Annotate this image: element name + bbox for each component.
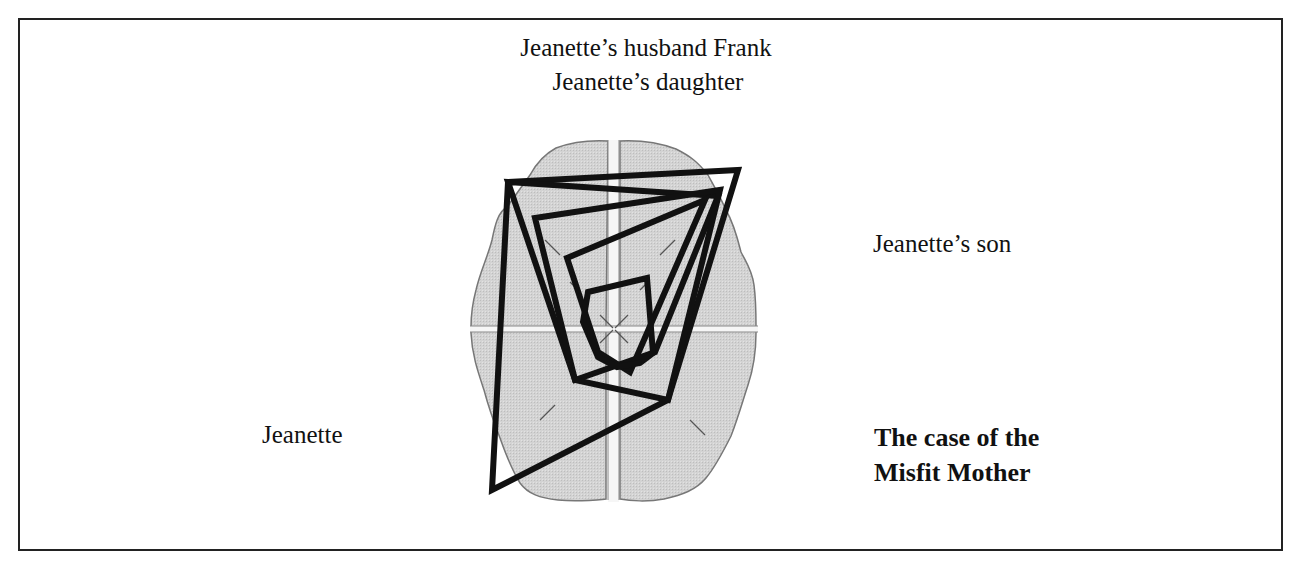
diagram-title-line2: Misfit Mother [874, 456, 1031, 490]
diagram-title-line1: The case of the [874, 421, 1039, 455]
label-husband-frank: Jeanette’s husband Frank [520, 33, 771, 63]
label-daughter: Jeanette’s daughter [553, 67, 744, 97]
brain-horizontal-midline [470, 326, 758, 332]
label-jeanette: Jeanette [262, 420, 343, 450]
brain-vertical-midline [608, 140, 619, 502]
label-son: Jeanette’s son [873, 229, 1011, 259]
